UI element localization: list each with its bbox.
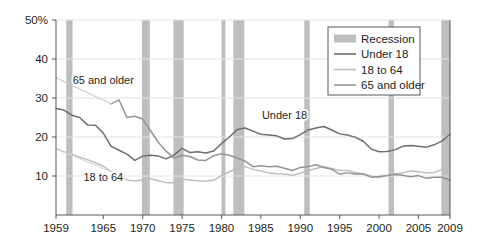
y-tick-label: 10: [35, 170, 48, 182]
legend-label: Under 18: [361, 48, 408, 60]
x-tick-label: 1975: [169, 222, 195, 234]
x-tick-label: 2009: [437, 222, 463, 234]
legend-label: Recession: [361, 33, 415, 45]
x-tick-label: 1970: [130, 222, 156, 234]
recession-band: [233, 20, 244, 215]
x-axis-ticks: 1959196519701975198019851990199520002005…: [43, 215, 463, 234]
y-tick-label: 40: [35, 53, 48, 65]
y-tick-label: 20: [35, 131, 48, 143]
legend-label: 18 to 64: [361, 64, 403, 76]
x-tick-label: 1995: [327, 222, 353, 234]
legend-swatch-recession: [334, 35, 356, 43]
annotation-label: 18 to 64: [83, 171, 123, 183]
chart-canvas: 1020304050% 1959196519701975198019851990…: [0, 0, 481, 252]
y-axis-ticks: 1020304050%: [25, 14, 56, 182]
x-tick-label: 1980: [209, 222, 235, 234]
y-tick-label: 50%: [25, 14, 48, 26]
legend: RecessionUnder 1818 to 6465 and older: [328, 27, 425, 95]
recession-band: [441, 20, 450, 215]
x-tick-label: 1990: [287, 222, 313, 234]
x-tick-label: 1985: [248, 222, 274, 234]
annotation-label: 65 and older: [73, 74, 134, 86]
poverty-rate-chart: 1020304050% 1959196519701975198019851990…: [0, 0, 481, 252]
x-tick-label: 1965: [90, 222, 116, 234]
y-tick-label: 30: [35, 92, 48, 104]
legend-label: 65 and older: [361, 79, 425, 91]
recession-band: [173, 20, 183, 215]
recession-band: [221, 20, 225, 215]
annotation-label: Under 18: [262, 109, 307, 121]
x-tick-label: 2005: [406, 222, 432, 234]
recession-band: [142, 20, 150, 215]
recession-band: [66, 20, 72, 215]
x-tick-label: 1959: [43, 222, 69, 234]
x-tick-label: 2000: [366, 222, 392, 234]
